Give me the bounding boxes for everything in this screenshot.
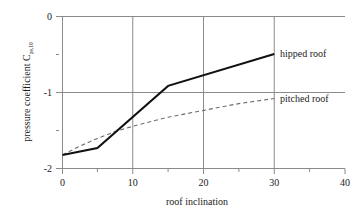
xtick-label-10: 10 — [128, 177, 138, 188]
xtick-label-30: 30 — [269, 177, 279, 188]
chart-svg: 0 -1 -2 0 10 20 30 40 roof inclination p… — [0, 0, 362, 218]
y-axis-title-main: pressure coefficient C — [21, 54, 32, 142]
y-axis-title-subscript: pe,10 — [28, 42, 34, 54]
chart-figure: 0 -1 -2 0 10 20 30 40 roof inclination p… — [0, 0, 362, 218]
ytick-label-0: 0 — [47, 11, 52, 22]
y-axis-title: pressure coefficient Cpe,10 — [21, 42, 34, 142]
ytick-label-minus1: -1 — [44, 87, 52, 98]
series-label-pitched-roof: pitched roof — [280, 93, 329, 104]
xtick-label-40: 40 — [340, 177, 350, 188]
chart-background — [0, 0, 362, 218]
series-label-hipped-roof: hipped roof — [280, 48, 327, 59]
y-axis-title-group: pressure coefficient Cpe,10 — [21, 42, 34, 142]
xtick-label-0: 0 — [60, 177, 65, 188]
ytick-label-minus2: -2 — [44, 163, 52, 174]
xtick-label-20: 20 — [199, 177, 209, 188]
x-axis-title: roof inclination — [166, 196, 228, 207]
